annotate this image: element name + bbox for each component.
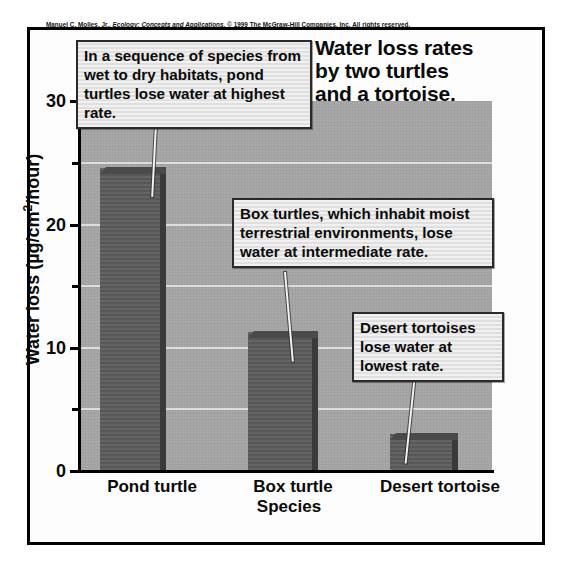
bar-desert-tortoise <box>390 434 452 470</box>
y-tick-5 <box>72 408 78 411</box>
y-axis-title-tail: /hour) <box>23 154 43 205</box>
y-tick-10 <box>70 347 78 350</box>
callout-desert-tortoise-text: Desert tortoises lose water at lowest ra… <box>360 318 497 375</box>
y-axis-line <box>78 99 81 473</box>
callout-pond-turtle-text: In a sequence of species from wet to dry… <box>84 46 305 122</box>
chart-title: Water loss rates by two turtles and a to… <box>315 36 540 105</box>
bar-side-face <box>452 440 458 470</box>
callout-pond-turtle: In a sequence of species from wet to dry… <box>76 40 312 129</box>
bar-top-face <box>248 331 318 338</box>
gridline-25 <box>80 162 492 164</box>
bar-box-turtle <box>248 332 312 470</box>
y-tick-25 <box>72 162 78 165</box>
y-axis-title: Water loss (µg/cm2/hour) <box>21 110 44 410</box>
bar-pond-turtle <box>100 168 160 470</box>
copyright-credit-line: Manuel C. Molles, Jr., Ecology: Concepts… <box>46 20 486 28</box>
callout-box-turtle-text: Box turtles, which inhabit moist terrest… <box>240 204 487 261</box>
x-tick-label-desert-tortoise: Desert tortoise <box>360 477 520 497</box>
y-tick-0 <box>70 470 78 473</box>
y-axis-title-exponent: 2 <box>21 205 35 212</box>
bar-top-face <box>100 167 166 174</box>
x-axis-title: Species <box>0 497 578 517</box>
callout-box-turtle: Box turtles, which inhabit moist terrest… <box>232 198 494 268</box>
bar-top-face <box>390 433 458 440</box>
chart-title-line-1: Water loss rates <box>315 36 473 59</box>
callout-desert-tortoise: Desert tortoises lose water at lowest ra… <box>352 312 504 382</box>
y-tick-label-0: 0 <box>26 461 66 482</box>
chart-title-line-2: by two turtles <box>315 59 449 82</box>
x-axis-line <box>78 470 494 473</box>
chart-title-line-3: and a tortoise. <box>315 82 456 105</box>
credit-work-title: Ecology: Concepts and Applications <box>113 20 224 28</box>
y-tick-15 <box>72 285 78 288</box>
y-tick-20 <box>70 224 78 227</box>
bar-side-face <box>160 174 166 470</box>
bar-side-face <box>312 338 318 470</box>
x-tick-label-box-turtle: Box turtle <box>228 477 358 497</box>
x-tick-label-pond-turtle: Pond turtle <box>82 477 222 497</box>
y-axis-title-main: Water loss (µg/cm <box>23 211 43 365</box>
credit-rights: , © 1999 The McGraw-Hill Companies, Inc.… <box>224 20 411 28</box>
